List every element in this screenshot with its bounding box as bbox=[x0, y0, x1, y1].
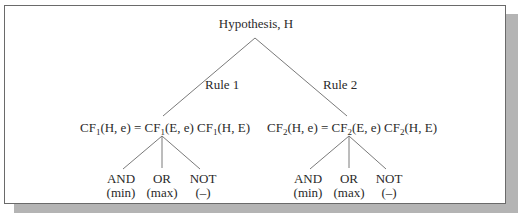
edge-rule2-not bbox=[349, 136, 386, 169]
tree-edges bbox=[0, 0, 518, 216]
edge-rule2-and bbox=[310, 136, 349, 169]
edge-rule1-not bbox=[162, 136, 200, 169]
cf-symbol: CF bbox=[197, 120, 213, 135]
cf-symbol: CF bbox=[145, 120, 161, 135]
operator-name: AND bbox=[294, 172, 323, 186]
cf-symbol: CF bbox=[267, 120, 283, 135]
cf-symbol: CF bbox=[384, 120, 400, 135]
rule1-label: Rule 1 bbox=[205, 78, 239, 92]
operator-func: (max) bbox=[333, 186, 364, 200]
operator-func: (–) bbox=[190, 186, 217, 200]
root-node-hypothesis: Hypothesis, H bbox=[219, 17, 293, 31]
operator-name: OR bbox=[146, 172, 177, 186]
cf-args: (E, e) bbox=[352, 120, 384, 135]
rule1-op-and: AND (min) bbox=[107, 172, 136, 200]
operator-func: (–) bbox=[376, 186, 403, 200]
operator-name: OR bbox=[333, 172, 364, 186]
operator-name: AND bbox=[107, 172, 136, 186]
cf-args: (H, e) = bbox=[287, 120, 331, 135]
operator-func: (min) bbox=[294, 186, 323, 200]
operator-func: (min) bbox=[107, 186, 136, 200]
rule1-op-or: OR (max) bbox=[146, 172, 177, 200]
operator-func: (max) bbox=[146, 186, 177, 200]
rule1-formula: CF1(H, e) = CF1(E, e) CF1(H, E) bbox=[80, 121, 250, 135]
operator-name: NOT bbox=[190, 172, 217, 186]
operator-name: NOT bbox=[376, 172, 403, 186]
cf-args: (H, E) bbox=[405, 120, 438, 135]
cf-symbol: CF bbox=[80, 120, 96, 135]
cf-symbol: CF bbox=[332, 120, 348, 135]
edge-rule1-and bbox=[123, 136, 162, 169]
rule2-op-not: NOT (–) bbox=[376, 172, 403, 200]
cf-args: (H, E) bbox=[218, 120, 251, 135]
rule1-op-not: NOT (–) bbox=[190, 172, 217, 200]
rule2-formula: CF2(H, e) = CF2(E, e) CF2(H, E) bbox=[267, 121, 437, 135]
rule2-op-and: AND (min) bbox=[294, 172, 323, 200]
cf-args: (E, e) bbox=[165, 120, 197, 135]
rule2-label: Rule 2 bbox=[323, 78, 357, 92]
rule2-op-or: OR (max) bbox=[333, 172, 364, 200]
cf-args: (H, e) = bbox=[100, 120, 144, 135]
